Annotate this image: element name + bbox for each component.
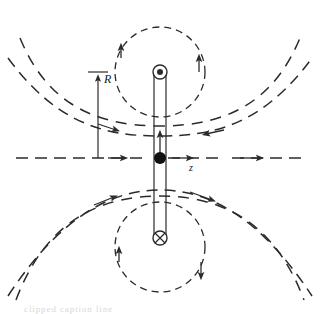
marker-current-into-page — [153, 231, 167, 245]
field-line-mid-lower-arrow-left — [94, 197, 114, 205]
radius-label: R — [104, 73, 111, 85]
field-line-mid-lower-arrow-right — [190, 192, 212, 200]
field-line-outer-upper — [20, 38, 300, 126]
marker-field-point — [154, 152, 166, 164]
marker-current-out-of-page — [153, 65, 167, 79]
caption-text: clipped caption line — [24, 306, 113, 314]
field-diagram-svg — [0, 0, 320, 314]
figure-container: R z clipped caption line — [0, 0, 320, 314]
caption-strip: clipped caption line — [0, 306, 320, 314]
field-line-inner-bottom — [115, 202, 205, 292]
field-line-outer-lower — [16, 196, 304, 300]
axis-label-z: z — [189, 163, 193, 173]
